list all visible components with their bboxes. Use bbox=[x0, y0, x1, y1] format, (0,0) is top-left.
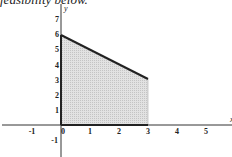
svg-text:4: 4 bbox=[175, 127, 179, 136]
svg-text:4: 4 bbox=[55, 61, 59, 70]
svg-text:1: 1 bbox=[55, 106, 59, 115]
svg-text:2: 2 bbox=[55, 91, 59, 100]
svg-text:2: 2 bbox=[117, 127, 121, 136]
svg-text:5: 5 bbox=[55, 45, 59, 54]
svg-text:3: 3 bbox=[55, 76, 59, 85]
svg-text:3: 3 bbox=[146, 127, 150, 136]
svg-text:-1: -1 bbox=[29, 127, 36, 136]
svg-text:1: 1 bbox=[88, 127, 92, 136]
feasible-region-chart: -1 0 1 2 3 4 5 -1 1 2 3 4 5 6 7 y x bbox=[0, 0, 232, 157]
y-axis-label: y bbox=[63, 4, 68, 13]
svg-text:5: 5 bbox=[204, 127, 208, 136]
svg-text:0: 0 bbox=[61, 127, 65, 136]
feasible-region bbox=[61, 35, 148, 125]
svg-text:6: 6 bbox=[55, 30, 59, 39]
x-tick-labels: -1 0 1 2 3 4 5 bbox=[29, 127, 208, 136]
svg-text:-1: -1 bbox=[51, 136, 58, 145]
x-axis-label: x bbox=[229, 115, 232, 124]
svg-text:7: 7 bbox=[55, 15, 59, 24]
